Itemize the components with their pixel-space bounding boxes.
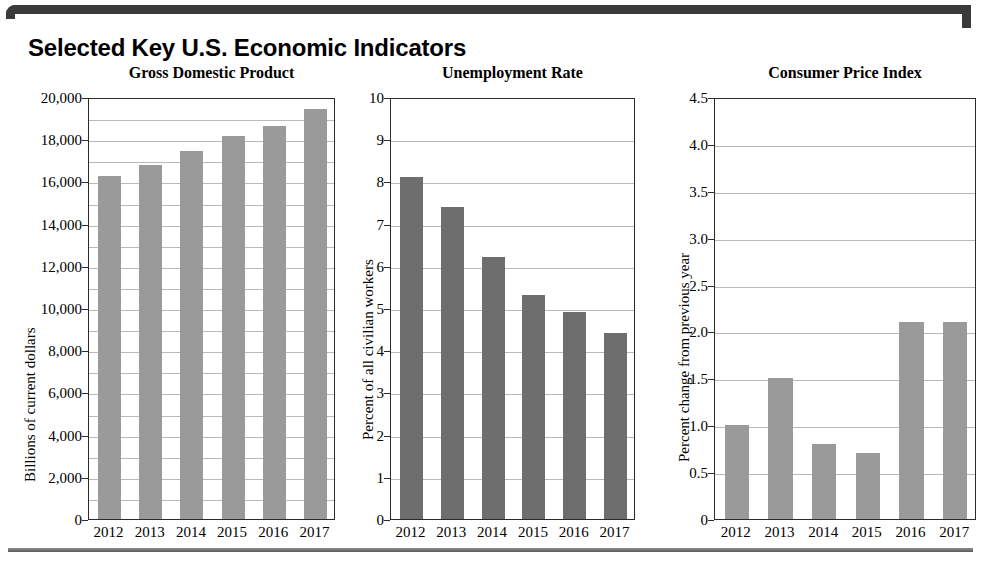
gridline xyxy=(89,437,334,438)
gridline xyxy=(391,141,634,142)
bar-2017 xyxy=(943,322,967,519)
gridline xyxy=(715,474,975,475)
gridline xyxy=(391,479,634,480)
y-tick-label: 3.5 xyxy=(642,183,708,200)
y-tick-label: 10 xyxy=(318,90,384,107)
bar-2015 xyxy=(856,453,880,519)
bar-2014 xyxy=(482,257,505,519)
x-tick-label-2014: 2014 xyxy=(170,524,211,541)
y-tick-label: 3 xyxy=(318,385,384,402)
x-tick-label-2015: 2015 xyxy=(513,524,554,541)
x-tick-label-2012: 2012 xyxy=(390,524,431,541)
y-tick-label: 3.0 xyxy=(642,230,708,247)
gridline xyxy=(89,183,334,184)
gridline xyxy=(89,141,334,142)
y-tick-label: 0 xyxy=(16,512,82,529)
x-tick-label-2016: 2016 xyxy=(253,524,294,541)
gridline xyxy=(89,162,334,163)
y-tick-label: 0.5 xyxy=(642,465,708,482)
x-tick-label-2013: 2013 xyxy=(431,524,472,541)
gridline xyxy=(89,226,334,227)
chart-unemployment-rate: Unemployment RatePercent of all civilian… xyxy=(332,62,647,542)
gridline xyxy=(89,120,334,121)
chart-consumer-price-index: Consumer Price IndexPercent change from … xyxy=(648,62,981,542)
y-tick-mark xyxy=(384,309,390,310)
y-tick-mark xyxy=(708,239,714,240)
gridline xyxy=(89,310,334,311)
bar-2013 xyxy=(441,207,464,519)
y-tick-label: 4,000 xyxy=(16,427,82,444)
y-tick-label: 4.5 xyxy=(642,90,708,107)
bar-2015 xyxy=(222,136,245,519)
y-tick-label: 6 xyxy=(318,258,384,275)
x-tick-label-2013: 2013 xyxy=(129,524,170,541)
y-tick-mark xyxy=(708,98,714,99)
y-tick-label: 18,000 xyxy=(16,132,82,149)
gridline xyxy=(89,373,334,374)
gridline xyxy=(715,240,975,241)
chart-title-unemployment-rate: Unemployment Rate xyxy=(390,64,635,82)
bar-2013 xyxy=(768,378,792,519)
gridline xyxy=(391,226,634,227)
charts-row: Gross Domestic ProductBillions of curren… xyxy=(0,62,981,542)
y-tick-label: 0 xyxy=(318,512,384,529)
x-tick-label-2012: 2012 xyxy=(88,524,129,541)
chart-gross-domestic-product: Gross Domestic ProductBillions of curren… xyxy=(0,62,347,542)
y-tick-mark xyxy=(384,98,390,99)
y-tick-label: 1.5 xyxy=(642,371,708,388)
y-tick-mark xyxy=(82,267,88,268)
x-tick-label-2014: 2014 xyxy=(472,524,513,541)
y-tick-label: 14,000 xyxy=(16,216,82,233)
y-tick-mark xyxy=(82,436,88,437)
y-tick-label: 16,000 xyxy=(16,174,82,191)
gridline xyxy=(89,268,334,269)
bar-2016 xyxy=(899,322,923,519)
x-tick-label-2016: 2016 xyxy=(553,524,594,541)
x-tick-label-2017: 2017 xyxy=(932,524,976,541)
y-tick-label: 20,000 xyxy=(16,90,82,107)
decorative-bracket-right-tick xyxy=(962,14,971,28)
y-tick-mark xyxy=(384,225,390,226)
gridline xyxy=(89,458,334,459)
gridline xyxy=(715,427,975,428)
y-tick-label: 12,000 xyxy=(16,258,82,275)
page-title: Selected Key U.S. Economic Indicators xyxy=(28,34,466,62)
gridline xyxy=(391,352,634,353)
x-tick-label-2015: 2015 xyxy=(212,524,253,541)
chart-title-gross-domestic-product: Gross Domestic Product xyxy=(88,64,335,82)
y-tick-mark xyxy=(82,225,88,226)
x-tick-label-2014: 2014 xyxy=(801,524,845,541)
y-tick-label: 4 xyxy=(318,343,384,360)
y-tick-label: 1 xyxy=(318,469,384,486)
y-tick-label: 2,000 xyxy=(16,469,82,486)
y-tick-mark xyxy=(384,267,390,268)
gridline xyxy=(391,394,634,395)
gridline xyxy=(89,352,334,353)
y-tick-label: 6,000 xyxy=(16,385,82,402)
gridline xyxy=(89,247,334,248)
y-tick-label: 5 xyxy=(318,301,384,318)
y-tick-mark xyxy=(384,478,390,479)
gridline xyxy=(391,310,634,311)
gridline xyxy=(89,500,334,501)
y-tick-mark xyxy=(708,332,714,333)
y-tick-label: 2.5 xyxy=(642,277,708,294)
plot-area-unemployment-rate xyxy=(390,98,635,520)
gridline xyxy=(391,183,634,184)
y-tick-mark xyxy=(708,286,714,287)
y-tick-mark xyxy=(384,140,390,141)
y-tick-label: 8 xyxy=(318,174,384,191)
bar-2012 xyxy=(400,177,423,519)
y-tick-label: 10,000 xyxy=(16,301,82,318)
gridline xyxy=(89,479,334,480)
gridline xyxy=(391,268,634,269)
y-tick-mark xyxy=(708,520,714,521)
bar-2015 xyxy=(522,295,545,519)
y-tick-mark xyxy=(384,393,390,394)
y-tick-label: 2 xyxy=(318,427,384,444)
bar-2016 xyxy=(563,312,586,519)
gridline xyxy=(715,193,975,194)
gridline xyxy=(89,289,334,290)
y-tick-label: 4.0 xyxy=(642,136,708,153)
y-tick-mark xyxy=(708,379,714,380)
